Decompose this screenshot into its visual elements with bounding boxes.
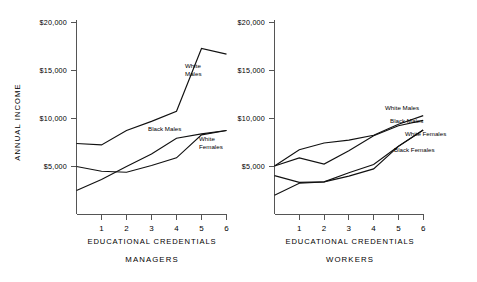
y-tick-label-10000-managers: $10,000 — [40, 114, 67, 123]
y-tick-label-15000-workers: $15,000 — [238, 66, 265, 75]
panel-title-managers: MANAGERS — [125, 255, 178, 264]
y-tick-label-15000-managers: $15,000 — [40, 66, 67, 75]
x-tick-label-1-managers: 1 — [99, 224, 104, 233]
x-tick-label-6-workers: 6 — [421, 224, 426, 233]
series-label-black-females-workers: Black Females — [394, 146, 435, 153]
x-tick-label-1-workers: 1 — [297, 224, 302, 233]
panel-workers: $20,000 $15,000 $10,000 $5,000 1 2 3 4 5… — [238, 18, 447, 264]
y-tick-label-5000-workers: $5,000 — [242, 162, 265, 171]
y-tick-label-20000-workers: $20,000 — [238, 18, 265, 27]
x-tick-label-5-managers: 5 — [199, 224, 204, 233]
x-tick-label-2-managers: 2 — [124, 224, 129, 233]
x-tick-label-4-workers: 4 — [371, 224, 376, 233]
y-tick-label-10000-workers: $10,000 — [238, 114, 265, 123]
series-group-workers — [275, 116, 424, 196]
x-axis-title-managers: EDUCATIONAL CREDENTIALS — [87, 237, 216, 246]
x-tick-label-2-workers: 2 — [322, 224, 327, 233]
y-tick-label-5000-managers: $5,000 — [44, 162, 67, 171]
series-label-white-males-workers: White Males — [385, 104, 419, 111]
series-label-black-males-managers: Black Males — [148, 125, 181, 132]
series-label-white-males-managers-line2: Males — [185, 70, 202, 77]
x-tick-label-3-workers: 3 — [347, 224, 352, 233]
series-label-white-males-managers-line1: White — [185, 62, 201, 69]
x-axis-title-workers: EDUCATIONAL CREDENTIALS — [285, 237, 414, 246]
series-label-white-females-workers: White Females — [405, 130, 446, 137]
series-group-managers — [77, 48, 227, 190]
two-panel-line-chart: $20,000 $15,000 $10,000 $5,000 1 2 3 4 5… — [0, 0, 477, 282]
x-tick-label-4-managers: 4 — [174, 224, 179, 233]
y-tick-label-20000-managers: $20,000 — [40, 18, 67, 27]
panel-managers: $20,000 $15,000 $10,000 $5,000 1 2 3 4 5… — [13, 18, 229, 264]
series-line-white-females-workers — [275, 130, 424, 182]
series-label-white-females-managers-line2: Females — [199, 143, 223, 150]
x-tick-label-5-workers: 5 — [396, 224, 401, 233]
x-tick-label-3-managers: 3 — [149, 224, 154, 233]
x-tick-label-6-managers: 6 — [224, 224, 229, 233]
series-label-black-males-workers: Black Males — [390, 117, 423, 124]
y-axis-title-annual-income: ANNUAL INCOME — [13, 83, 22, 160]
figure-container: $20,000 $15,000 $10,000 $5,000 1 2 3 4 5… — [0, 0, 477, 282]
series-label-white-females-managers-line1: White — [199, 135, 215, 142]
series-line-black-males-workers — [275, 120, 424, 166]
panel-title-workers: WORKERS — [326, 255, 374, 264]
